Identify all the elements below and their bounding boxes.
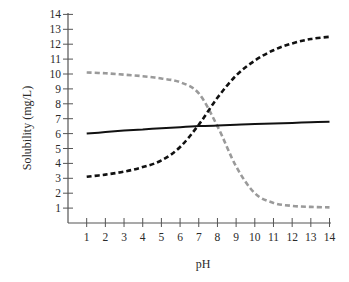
series-line-dashed-gray: [87, 73, 330, 208]
y-tick-label: 6: [55, 128, 61, 140]
axes: [68, 13, 331, 223]
y-tick-label: 3: [55, 172, 61, 184]
x-tick-label: 1: [84, 231, 90, 243]
series-line-solid-black: [87, 122, 330, 134]
y-tick-label: 9: [55, 83, 61, 95]
x-tick-label: 9: [233, 231, 239, 243]
x-ticks: 1234567891011121314: [84, 218, 336, 243]
y-tick-label: 4: [55, 157, 61, 169]
x-tick-label: 14: [324, 231, 336, 243]
x-tick-label: 6: [177, 231, 183, 243]
x-tick-label: 8: [215, 231, 221, 243]
y-axis-title: Solubility (mg/L): [20, 86, 34, 170]
x-tick-label: 7: [196, 231, 202, 243]
y-tick-label: 11: [50, 53, 61, 65]
x-tick-label: 12: [286, 231, 298, 243]
x-tick-label: 2: [102, 231, 108, 243]
x-tick-label: 13: [305, 231, 317, 243]
y-tick-label: 10: [50, 68, 62, 80]
x-tick-label: 5: [159, 231, 165, 243]
y-tick-label: 14: [50, 8, 62, 20]
x-tick-label: 11: [268, 231, 279, 243]
y-tick-label: 1: [55, 202, 61, 214]
x-tick-label: 3: [121, 231, 127, 243]
x-axis-title: pH: [196, 257, 211, 271]
y-tick-label: 8: [55, 98, 61, 110]
solubility-vs-ph-chart: 1234567891011121314 1234567891011121314 …: [0, 0, 349, 282]
y-tick-label: 13: [50, 23, 62, 35]
y-tick-label: 7: [55, 113, 61, 125]
y-tick-label: 5: [55, 143, 61, 155]
y-tick-label: 12: [50, 38, 62, 50]
y-tick-label: 2: [55, 187, 61, 199]
plot-lines: [87, 37, 330, 208]
y-ticks: 1234567891011121314: [50, 8, 74, 214]
x-tick-label: 4: [140, 231, 146, 243]
x-tick-label: 10: [249, 231, 261, 243]
